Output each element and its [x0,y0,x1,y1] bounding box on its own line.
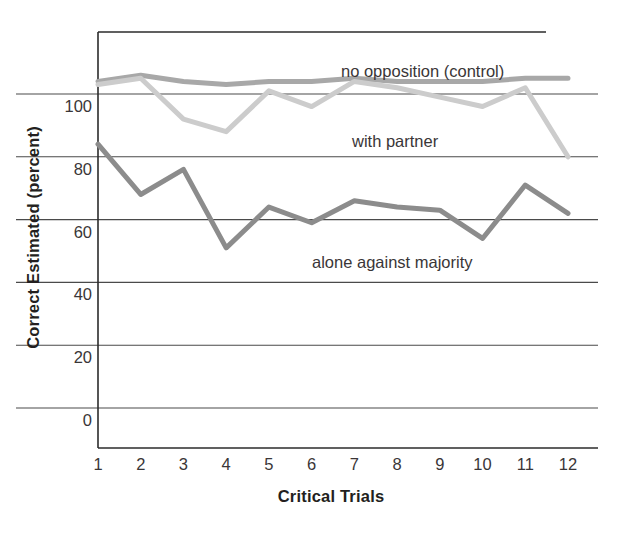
series-annotation-0: no opposition (control) [341,62,504,81]
x-tick-label: 3 [179,455,188,474]
series-line-2 [98,144,568,248]
x-tick-label: 8 [392,455,401,474]
x-tick-label: 5 [264,455,273,474]
data-series-group [98,75,568,248]
series-line-1 [98,78,568,157]
series-annotation-1: with partner [352,132,438,151]
chart-figure: Correct Estimated (percent) Critical Tri… [0,0,624,540]
x-axis-title: Critical Trials [98,487,564,506]
x-tick-label: 6 [307,455,316,474]
y-tick-label: 0 [83,411,92,430]
x-tick-label: 4 [222,455,231,474]
gridlines-group [16,94,598,408]
series-annotation-2: alone against majority [312,253,473,272]
x-tick-label: 7 [350,455,359,474]
y-axis-title: Correct Estimated (percent) [24,73,43,403]
x-tick-label: 9 [435,455,444,474]
y-tick-label: 100 [64,97,92,116]
y-tick-label: 40 [74,285,92,304]
x-tick-label: 12 [559,455,577,474]
x-tick-label: 2 [136,455,145,474]
x-tick-label: 11 [517,455,534,474]
y-tick-label: 20 [74,348,92,367]
y-tick-label: 80 [74,160,92,179]
x-tick-label: 10 [473,455,491,474]
y-tick-label: 60 [74,223,92,242]
x-tick-label: 1 [93,455,102,474]
